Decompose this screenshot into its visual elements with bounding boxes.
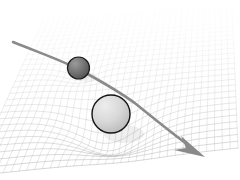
large-mass-sphere (92, 95, 130, 133)
figure-canvas: Spacetime curvature grid with two masses… (0, 0, 240, 180)
small-mass-sphere (68, 57, 90, 79)
spacetime-curvature-figure: Spacetime curvature grid with two masses… (0, 0, 240, 180)
